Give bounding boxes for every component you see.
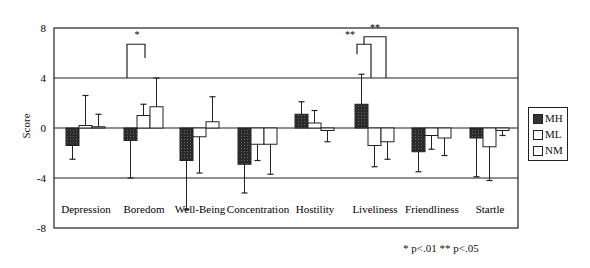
legend-swatch-ml: [533, 130, 543, 140]
significance-marker: **: [370, 22, 380, 33]
y-tick-label: 4: [41, 72, 47, 84]
bar-nm: [206, 122, 219, 128]
y-tick-label: -4: [37, 172, 47, 184]
legend-swatch-nm: [533, 146, 543, 156]
bar-nm: [92, 127, 105, 128]
bar-ml: [425, 128, 438, 136]
bar-ml: [193, 128, 206, 137]
bar-nm: [150, 107, 163, 128]
significance-bracket: [364, 37, 386, 78]
y-tick-label: 8: [41, 22, 47, 34]
y-tick-label: 0: [41, 122, 47, 134]
bar-ml: [368, 128, 381, 146]
legend-item-nm: NM: [533, 144, 563, 156]
significance-bracket: [127, 44, 145, 78]
bar-mh: [66, 128, 79, 146]
significance-marker: *: [135, 29, 140, 40]
bar-mh: [180, 128, 193, 161]
bar-ml: [251, 128, 264, 144]
category-label: Concentration: [227, 203, 290, 215]
bar-ml: [137, 116, 150, 129]
significance-bracket: [357, 44, 371, 78]
bar-mh: [124, 128, 137, 141]
legend-label-ml: ML: [545, 128, 562, 140]
bar-nm: [438, 128, 451, 138]
category-label: Friendliness: [405, 203, 459, 215]
category-label: Boredom: [124, 203, 165, 215]
bar-mh: [295, 114, 308, 128]
category-label: Liveliness: [352, 203, 397, 215]
bar-mh: [355, 104, 368, 128]
bar-ml: [308, 123, 321, 128]
bar-ml: [483, 128, 496, 147]
bar-chart: 840-4-8DepressionBoredomWell-BeingConcen…: [0, 0, 590, 268]
legend-swatch-mh: [533, 114, 543, 124]
bar-nm: [496, 128, 509, 131]
category-label: Startle: [476, 203, 505, 215]
bar-ml: [79, 126, 92, 129]
legend-item-ml: ML: [533, 128, 562, 140]
y-tick-label: -8: [37, 222, 47, 234]
y-axis-label: Score: [20, 106, 32, 146]
legend: MH ML NM: [528, 107, 568, 161]
category-label: Well-Being: [175, 203, 226, 215]
category-label: Hostility: [296, 203, 335, 215]
bar-nm: [264, 128, 277, 144]
bar-nm: [381, 128, 394, 142]
bar-mh: [412, 128, 425, 152]
category-label: Depression: [61, 203, 111, 215]
legend-item-mh: MH: [533, 112, 563, 124]
significance-footnote: * p<.01 ** p<.05: [403, 242, 479, 254]
legend-label-mh: MH: [545, 112, 563, 124]
significance-marker: **: [345, 29, 355, 40]
legend-label-nm: NM: [545, 144, 563, 156]
bar-mh: [238, 128, 251, 164]
bar-mh: [470, 128, 483, 138]
bar-nm: [321, 128, 334, 131]
